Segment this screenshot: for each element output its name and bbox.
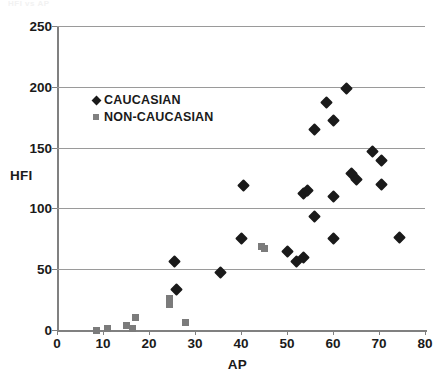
x-tick-label: 70 — [359, 337, 399, 351]
legend-item-caucasian: CAUCASIAN — [88, 92, 214, 108]
data-point — [261, 245, 268, 252]
x-axis-tick-labels: 01020304050607080 — [0, 0, 445, 384]
data-point — [166, 301, 173, 308]
chart-legend: CAUCASIAN NON-CAUCASIAN — [88, 92, 214, 126]
x-tick-label: 10 — [83, 337, 123, 351]
x-tick-label: 20 — [129, 337, 169, 351]
data-point — [129, 325, 136, 332]
y-axis-title: HFI — [10, 168, 33, 183]
square-icon — [88, 114, 104, 120]
x-tick-label: 30 — [175, 337, 215, 351]
x-tick-label: 80 — [405, 337, 445, 351]
x-tick-label: 0 — [37, 337, 77, 351]
x-axis-title: AP — [0, 357, 445, 372]
legend-label-caucasian: CAUCASIAN — [104, 94, 181, 107]
legend-label-non-caucasian: NON-CAUCASIAN — [104, 111, 214, 124]
x-tick-label: 50 — [267, 337, 307, 351]
data-point — [104, 325, 111, 332]
legend-item-non-caucasian: NON-CAUCASIAN — [88, 109, 214, 125]
diamond-icon — [88, 97, 104, 104]
data-point — [182, 319, 189, 326]
data-point — [132, 314, 139, 321]
data-point — [93, 327, 100, 334]
x-tick-label: 40 — [221, 337, 261, 351]
scatter-chart-figure: HFI vs AP 050100150200250 01020304050607… — [0, 0, 445, 384]
x-tick-label: 60 — [313, 337, 353, 351]
